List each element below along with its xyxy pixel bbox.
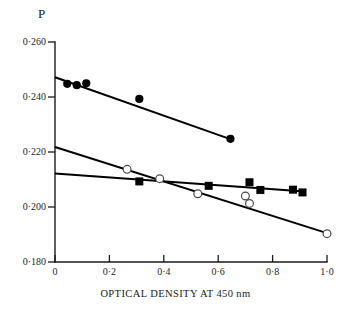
data-point-filled-squares-4	[289, 186, 297, 194]
x-tick-label-4: 0·8	[253, 266, 293, 277]
axes-group	[55, 42, 327, 262]
x-tick-label-5: 1·0	[307, 266, 347, 277]
x-tick-label-1: 0·2	[89, 266, 129, 277]
data-point-open-circles-4	[246, 200, 254, 208]
x-tick-label-0: 0	[35, 266, 75, 277]
y-tick-label-2: 0·220	[0, 146, 46, 157]
data-markers-group	[63, 79, 331, 237]
data-point-open-circles-2	[194, 190, 202, 198]
y-tick-marks	[48, 42, 55, 262]
data-point-filled-circles-4	[226, 135, 234, 143]
data-point-filled-circles-3	[135, 95, 143, 103]
data-point-filled-circles-2	[82, 79, 90, 87]
y-tick-label-0: 0·260	[0, 36, 46, 47]
data-point-filled-squares-3	[256, 186, 264, 194]
data-point-filled-squares-0	[135, 177, 143, 185]
figure-container: P 0·2600·2400·2200·2000·18000·20·40·60·8…	[0, 0, 351, 312]
y-tick-label-3: 0·200	[0, 201, 46, 212]
data-point-open-circles-1	[156, 175, 164, 183]
x-tick-marks	[55, 255, 327, 262]
x-axis-title: OPTICAL DENSITY AT 450 nm	[0, 288, 351, 299]
x-tick-label-3: 0·6	[198, 266, 238, 277]
data-point-filled-squares-5	[299, 188, 307, 196]
data-point-filled-circles-1	[73, 81, 81, 89]
data-point-open-circles-0	[123, 165, 131, 173]
trend-line-filled-circles	[55, 77, 233, 140]
data-point-open-circles-3	[242, 192, 250, 200]
data-point-filled-squares-2	[245, 178, 253, 186]
data-point-filled-squares-1	[205, 182, 213, 190]
trend-lines-group	[55, 77, 327, 233]
y-tick-label-1: 0·240	[0, 91, 46, 102]
data-point-open-circles-5	[323, 230, 331, 238]
data-point-filled-circles-0	[63, 80, 71, 88]
x-tick-label-2: 0·4	[144, 266, 184, 277]
